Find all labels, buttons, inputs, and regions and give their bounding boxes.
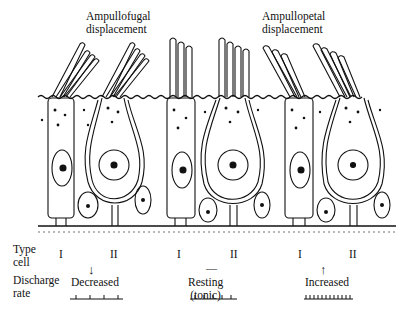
heading-ampullopetal: Ampullopetal displacement	[262, 10, 325, 36]
heading-line: Ampullofugal	[86, 10, 151, 23]
row-label-line: rate	[13, 287, 59, 300]
cell-type-label: I	[59, 248, 63, 261]
stereocilia-bundle-type-i	[52, 43, 99, 97]
panel-ampullopetal	[263, 44, 390, 226]
rate-label-decreased: Decreased	[71, 276, 119, 289]
stereocilia-bundle-type-ii	[102, 43, 149, 97]
rate-label-line: Resting	[188, 276, 223, 289]
row-label-line: Type	[13, 243, 36, 256]
stereocilia-bundle-type-i	[170, 38, 192, 97]
hair-cell-illustration	[0, 0, 403, 311]
dash-icon: —	[206, 262, 217, 275]
rate-label-increased: Increased	[305, 276, 349, 289]
panel-resting	[167, 38, 270, 226]
stereocilia-bundle-type-ii	[219, 38, 249, 97]
cell-type-label: I	[298, 248, 302, 261]
row-label-type-cell: Type cell	[13, 243, 36, 269]
cell-type-label: II	[230, 248, 238, 261]
stereocilia-bundle-type-i	[263, 46, 305, 97]
epithelium-surface	[38, 96, 362, 99]
row-label-line: Discharge	[13, 274, 59, 287]
cell-type-label: II	[110, 248, 118, 261]
up-arrow-icon: ↑	[320, 263, 327, 276]
heading-line: displacement	[86, 23, 151, 36]
row-label-line: cell	[13, 256, 36, 269]
heading-line: Ampullopetal	[262, 10, 325, 23]
heading-ampullofugal: Ampullofugal displacement	[86, 10, 151, 36]
spike-train-decreased	[70, 295, 123, 299]
stereocilia-bundle-type-ii	[313, 44, 360, 97]
down-arrow-icon: ↓	[88, 263, 95, 276]
row-label-discharge-rate: Discharge rate	[13, 274, 59, 300]
panel-ampullofugal	[41, 43, 151, 226]
rate-label-line: (tonic)	[188, 289, 223, 302]
cell-type-label: II	[349, 248, 357, 261]
heading-line: displacement	[262, 23, 325, 36]
rate-label-resting: Resting (tonic)	[188, 276, 223, 302]
cell-type-label: I	[177, 248, 181, 261]
spike-train-increased	[304, 295, 353, 299]
